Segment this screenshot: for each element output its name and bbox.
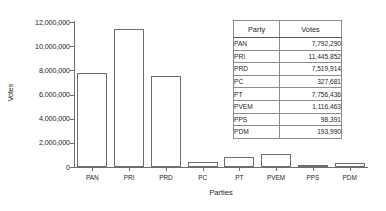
cell-party: PPS bbox=[234, 113, 280, 126]
cell-votes: 327,681 bbox=[280, 75, 342, 88]
cell-party: PVEM bbox=[234, 100, 280, 113]
bar-pri bbox=[114, 29, 144, 167]
table-row: PAN7,792,290 bbox=[234, 38, 342, 51]
cell-votes: 7,756,436 bbox=[280, 88, 342, 101]
y-tick-mark bbox=[70, 119, 74, 120]
bar-prd bbox=[151, 76, 181, 167]
bar-pdm bbox=[335, 163, 365, 167]
cell-votes: 11,445,852 bbox=[280, 50, 342, 63]
cell-party: PRI bbox=[234, 50, 280, 63]
x-tick-label-pvem: PVEM bbox=[256, 174, 296, 182]
y-tick-mark bbox=[70, 95, 74, 96]
x-tick-label-pc: PC bbox=[183, 174, 223, 182]
cell-votes: 7,792,290 bbox=[280, 38, 342, 51]
y-tick-label: 12,000,000 bbox=[10, 19, 70, 26]
table-row: PVEM1,116,463 bbox=[234, 100, 342, 113]
cell-party: PC bbox=[234, 75, 280, 88]
x-tick-mark bbox=[276, 167, 277, 171]
y-tick-label: 2,000,000 bbox=[10, 139, 70, 146]
table-header-row: Party Votes bbox=[234, 21, 342, 38]
x-tick-label-pdm: PDM bbox=[330, 174, 370, 182]
bar-pan bbox=[77, 73, 107, 167]
y-tick-label: 10,000,000 bbox=[10, 43, 70, 50]
y-tick-mark bbox=[70, 70, 74, 71]
cell-votes: 1,116,463 bbox=[280, 100, 342, 113]
y-tick-mark bbox=[70, 46, 74, 47]
table-body: PAN7,792,290PRI11,445,852PRD7,519,914PC3… bbox=[234, 38, 342, 139]
y-tick-label: 4,000,000 bbox=[10, 115, 70, 122]
table-header-votes: Votes bbox=[280, 21, 342, 38]
y-tick-label: 0 bbox=[10, 164, 70, 171]
bar-pt bbox=[224, 157, 254, 167]
table-row: PPS98,391 bbox=[234, 113, 342, 126]
cell-party: PDM bbox=[234, 126, 280, 139]
y-tick-mark bbox=[70, 22, 74, 23]
x-tick-mark bbox=[129, 167, 130, 171]
cell-party: PT bbox=[234, 88, 280, 101]
x-tick-label-prd: PRD bbox=[146, 174, 186, 182]
y-tick-label: 6,000,000 bbox=[10, 91, 70, 98]
x-tick-mark bbox=[350, 167, 351, 171]
table-row: PT7,756,436 bbox=[234, 88, 342, 101]
cell-votes: 193,990 bbox=[280, 126, 342, 139]
y-axis-line bbox=[74, 21, 75, 168]
cell-party: PRD bbox=[234, 63, 280, 76]
table-row: PC327,681 bbox=[234, 75, 342, 88]
x-tick-mark bbox=[313, 167, 314, 171]
x-tick-label-pan: PAN bbox=[72, 174, 112, 182]
cell-votes: 7,519,914 bbox=[280, 63, 342, 76]
table-header-party: Party bbox=[234, 21, 280, 38]
table-row: PRI11,445,852 bbox=[234, 50, 342, 63]
y-tick-mark bbox=[70, 167, 74, 168]
x-tick-mark bbox=[203, 167, 204, 171]
y-tick-mark bbox=[70, 143, 74, 144]
table-row: PDM193,990 bbox=[234, 126, 342, 139]
y-tick-label: 8,000,000 bbox=[10, 67, 70, 74]
bar-chart: Votes Parties 02,000,0004,000,0006,000,0… bbox=[0, 0, 386, 211]
bar-pc bbox=[188, 162, 218, 167]
table-row: PRD7,519,914 bbox=[234, 63, 342, 76]
x-axis-line bbox=[74, 167, 368, 168]
x-tick-label-pps: PPS bbox=[293, 174, 333, 182]
x-axis-title: Parties bbox=[74, 188, 368, 197]
x-tick-mark bbox=[239, 167, 240, 171]
cell-votes: 98,391 bbox=[280, 113, 342, 126]
bar-pvem bbox=[261, 154, 291, 167]
x-tick-label-pri: PRI bbox=[109, 174, 149, 182]
x-tick-label-pt: PT bbox=[219, 174, 259, 182]
bar-pps bbox=[298, 165, 328, 167]
votes-table: Party Votes PAN7,792,290PRI11,445,852PRD… bbox=[233, 20, 342, 139]
x-tick-mark bbox=[166, 167, 167, 171]
x-tick-mark bbox=[92, 167, 93, 171]
cell-party: PAN bbox=[234, 38, 280, 51]
